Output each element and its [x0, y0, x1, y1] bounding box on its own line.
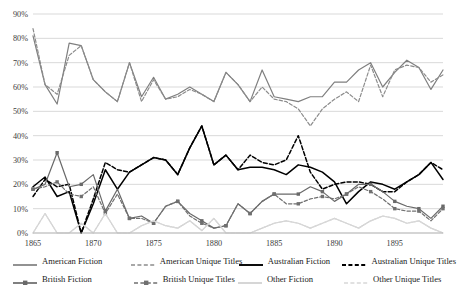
legend-item[interactable]: American Fiction: [4, 252, 130, 270]
series-marker-5: [321, 195, 324, 198]
legend-item[interactable]: Australian Unique Titles: [341, 252, 456, 270]
y-axis-tick-label: 30%: [13, 156, 28, 165]
legend-label: British Unique Titles: [163, 274, 235, 284]
legend-swatch-icon: [12, 256, 38, 266]
legend-swatch-icon: [133, 274, 159, 284]
x-axis-tick-label: 1895: [387, 239, 403, 248]
legend-label: Other Fiction: [267, 274, 313, 284]
legend-item[interactable]: American Unique Titles: [130, 252, 238, 270]
legend-swatch-icon: [341, 256, 367, 266]
y-axis-tick-label: 10%: [13, 205, 28, 214]
x-axis-tick-label: 1875: [145, 239, 161, 248]
x-axis-tick-label: 1865: [25, 239, 41, 248]
y-axis-tick-label: 80%: [13, 34, 28, 43]
series-line-7: [33, 214, 443, 233]
series-marker-5: [224, 224, 227, 227]
legend-swatch-icon: [130, 256, 156, 266]
y-axis-tick-label: 90%: [13, 10, 28, 19]
legend-item[interactable]: Australian Fiction: [238, 252, 342, 270]
legend-label: American Unique Titles: [160, 256, 243, 266]
x-axis-tick-label: 1870: [85, 239, 101, 248]
y-axis-tick-label: 60%: [13, 83, 28, 92]
legend-label: American Fiction: [42, 256, 102, 266]
legend-row: American FictionAmerican Unique TitlesAu…: [4, 252, 456, 270]
legend-swatch-icon: [343, 274, 369, 284]
legend-label: Other Unique Titles: [373, 274, 441, 284]
series-marker-4: [321, 190, 324, 193]
legend-swatch-icon: [12, 274, 38, 284]
y-axis-tick-label: 40%: [13, 132, 28, 141]
series-marker-5: [297, 202, 300, 205]
series-marker-5: [345, 192, 348, 195]
series-marker-5: [152, 222, 155, 225]
legend-item[interactable]: British Unique Titles: [133, 270, 237, 288]
chart-container: 0%10%20%30%40%50%60%70%80%90%18651870187…: [0, 0, 460, 292]
series-marker-5: [80, 195, 83, 198]
series-marker-4: [297, 192, 300, 195]
x-axis-tick-label: 1880: [206, 239, 222, 248]
series-marker-5: [272, 192, 275, 195]
y-axis-tick-label: 20%: [13, 180, 28, 189]
legend-item[interactable]: Other Fiction: [237, 270, 343, 288]
series-marker-5: [128, 217, 131, 220]
x-axis-tick-label: 1890: [326, 239, 342, 248]
series-marker-5: [31, 188, 34, 191]
y-axis-tick-label: 70%: [13, 59, 28, 68]
series-marker-5: [441, 207, 444, 210]
series-marker-4: [369, 183, 372, 186]
line-chart-plot: 0%10%20%30%40%50%60%70%80%90%18651870187…: [0, 0, 460, 250]
legend-row: British FictionBritish Unique TitlesOthe…: [4, 270, 456, 288]
series-line-0: [33, 36, 443, 104]
series-marker-5: [369, 190, 372, 193]
series-marker-4: [80, 183, 83, 186]
series-marker-5: [55, 180, 58, 183]
series-marker-5: [417, 209, 420, 212]
series-marker-4: [55, 151, 58, 154]
series-marker-5: [176, 200, 179, 203]
legend-label: Australian Fiction: [268, 256, 330, 266]
legend-swatch-icon: [238, 256, 264, 266]
legend-item[interactable]: Other Unique Titles: [343, 270, 456, 288]
chart-legend: American FictionAmerican Unique TitlesAu…: [0, 250, 460, 292]
series-marker-5: [200, 222, 203, 225]
y-axis-tick-label: 50%: [13, 107, 28, 116]
series-marker-5: [393, 207, 396, 210]
legend-item[interactable]: British Fiction: [4, 270, 133, 288]
x-axis-tick-label: 1885: [266, 239, 282, 248]
legend-label: Australian Unique Titles: [371, 256, 456, 266]
series-marker-5: [248, 212, 251, 215]
y-axis-tick-label: 0%: [17, 229, 28, 238]
series-marker-4: [393, 200, 396, 203]
legend-swatch-icon: [237, 274, 263, 284]
legend-label: British Fiction: [42, 274, 92, 284]
